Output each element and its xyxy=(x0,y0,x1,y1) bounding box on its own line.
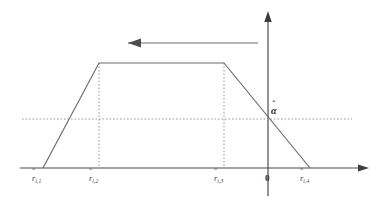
tick-label-r3-symbol: ˆr xyxy=(214,174,217,183)
tick-label-r1-subscript: i,1 xyxy=(35,178,41,184)
hat-accent-icon: ˆ xyxy=(272,101,275,109)
tick-label-r2: ˆri,2 xyxy=(89,174,98,185)
tick-label-r4-symbol: ˆr xyxy=(300,174,303,183)
tick-label-r2-subscript: i,2 xyxy=(92,178,98,184)
origin-label: 0 xyxy=(265,174,270,183)
hat-accent-icon: ˆ xyxy=(32,169,35,177)
figure-container: ˆri,1 ˆri,2 ˆri,3 0 ˆri,4 ˆα xyxy=(0,0,383,213)
trapezoid-membership-curve xyxy=(43,63,310,168)
tick-label-r2-symbol: ˆr xyxy=(89,174,92,183)
alpha-symbol: ˆα xyxy=(271,106,277,116)
tick-label-r3-subscript: i,3 xyxy=(217,178,223,184)
tick-label-r4-subscript: i,4 xyxy=(303,178,309,184)
tick-label-r1: ˆri,1 xyxy=(32,174,41,185)
hat-accent-icon: ˆ xyxy=(300,169,303,177)
tick-label-r1-symbol: ˆr xyxy=(32,174,35,183)
leftward-direction-arrow xyxy=(128,39,258,48)
direction-arrow-head-icon xyxy=(128,39,141,48)
hat-accent-icon: ˆ xyxy=(89,169,92,177)
x-axis-arrowhead-icon xyxy=(358,164,369,171)
tick-label-r3: ˆri,3 xyxy=(214,174,223,185)
figure-svg xyxy=(0,0,383,213)
hat-accent-icon: ˆ xyxy=(214,169,217,177)
x-axis-group xyxy=(20,164,369,171)
tick-label-r4: ˆri,4 xyxy=(300,174,309,185)
y-axis-arrowhead-icon xyxy=(264,11,271,22)
alpha-cut-label: ˆα xyxy=(271,106,277,116)
